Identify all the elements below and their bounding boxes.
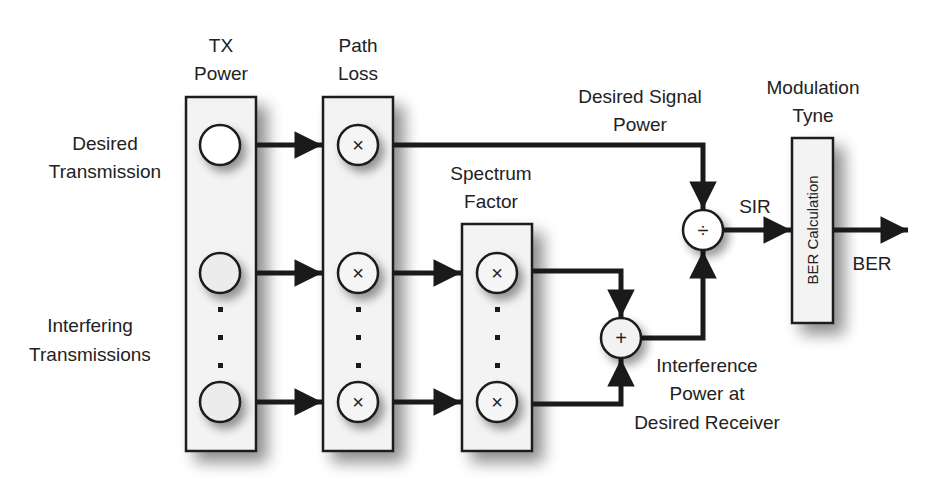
interference-ber-block-diagram: TX Power Path Loss Spectrum Factor Modul…: [0, 0, 936, 483]
desired-signal-power-label: Desired Signal Power: [578, 86, 702, 135]
plus-icon: +: [615, 327, 627, 349]
svg-text:Power: Power: [194, 63, 249, 84]
interference-power-label: Interference Power at Desired Receiver: [634, 355, 780, 433]
tx-to-pathloss-arrows: [256, 145, 322, 402]
svg-text:Transmissions: Transmissions: [29, 344, 151, 365]
desired-transmission-label: Desired Transmission: [49, 133, 161, 182]
tx-power-block: [186, 97, 256, 451]
svg-text:Tyne: Tyne: [792, 105, 833, 126]
svg-text:Path: Path: [338, 35, 377, 56]
divide-icon: ÷: [698, 219, 709, 241]
svg-text:BER Calculation: BER Calculation: [804, 175, 821, 284]
svg-text:Loss: Loss: [338, 63, 378, 84]
spectrum-factor-block: × ×: [462, 224, 532, 451]
pathloss-to-spectrum-arrows: [393, 273, 461, 402]
path-loss-title: Path Loss: [338, 35, 378, 84]
multiply-icon: ×: [352, 262, 364, 284]
svg-text:Spectrum: Spectrum: [450, 163, 531, 184]
interferer-path-top: [532, 271, 621, 317]
modulation-type-title: Modulation Tyne: [767, 77, 860, 126]
multiply-icon: ×: [491, 391, 503, 413]
division-node: ÷: [683, 210, 723, 250]
svg-text:Desired: Desired: [72, 133, 137, 154]
svg-text:Power at: Power at: [670, 383, 746, 404]
svg-text:Transmission: Transmission: [49, 161, 161, 182]
multiply-icon: ×: [491, 262, 503, 284]
svg-text:Interference: Interference: [656, 355, 757, 376]
sir-label: SIR: [739, 196, 771, 217]
tx-power-title: TX Power: [194, 35, 249, 84]
svg-text:Power: Power: [613, 114, 668, 135]
svg-text:Desired Receiver: Desired Receiver: [634, 412, 780, 433]
interference-to-divider-path: [641, 251, 703, 338]
svg-text:TX: TX: [209, 35, 234, 56]
interfering-transmissions-label: Interfering Transmissions: [29, 315, 151, 365]
ber-calculation-block: BER Calculation: [792, 138, 833, 323]
svg-text:Desired Signal: Desired Signal: [578, 86, 702, 107]
path-loss-block: × × ×: [323, 97, 393, 451]
desired-tx-node: [200, 125, 240, 165]
ber-label: BER: [852, 253, 891, 274]
desired-signal-path: [393, 145, 703, 209]
multiply-icon: ×: [352, 391, 364, 413]
multiply-icon: ×: [352, 134, 364, 156]
spectrum-factor-title: Spectrum Factor: [450, 163, 531, 212]
svg-text:Factor: Factor: [464, 191, 519, 212]
svg-text:Modulation: Modulation: [767, 77, 860, 98]
summation-node: +: [601, 318, 641, 358]
interferer-tx-node-n: [200, 382, 240, 422]
svg-text:Interfering: Interfering: [47, 315, 133, 336]
interferer-tx-node-1: [200, 253, 240, 293]
interferer-path-bottom: [532, 359, 621, 404]
